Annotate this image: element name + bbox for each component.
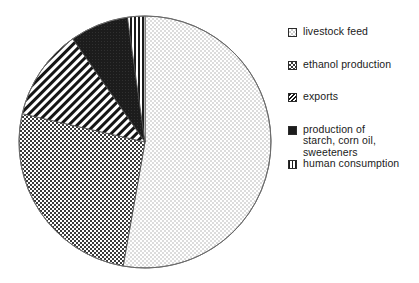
legend-item-livestock-feed[interactable]: livestock feed — [288, 26, 419, 38]
legend-item-ethanol-production[interactable]: ethanol production — [288, 59, 419, 71]
legend-label-livestock-feed: livestock feed — [303, 26, 368, 38]
legend-item-starch-production[interactable]: production of starch, corn oil, sweetene… — [288, 124, 419, 159]
medium-dots-swatch — [288, 61, 297, 70]
diagonal-stripes-swatch — [288, 93, 297, 102]
pie-chart-svg — [14, 8, 276, 276]
legend-label-ethanol-production: ethanol production — [303, 59, 391, 71]
pie-slices-group — [19, 16, 271, 268]
pie-chart-figure: livestock feed ethanol production export… — [0, 0, 419, 283]
pie-chart-plot — [14, 8, 276, 276]
solid-black-swatch — [288, 126, 297, 135]
legend-item-exports[interactable]: exports — [288, 91, 419, 103]
legend: livestock feed ethanol production export… — [288, 26, 419, 170]
vertical-lines-swatch — [288, 160, 297, 169]
legend-item-human-consumption[interactable]: human consumption — [288, 158, 419, 170]
legend-label-human-consumption: human consumption — [303, 158, 399, 170]
light-dots-swatch — [288, 28, 297, 37]
legend-label-starch-production: production of starch, corn oil, sweetene… — [303, 124, 376, 159]
legend-label-exports: exports — [303, 91, 338, 103]
